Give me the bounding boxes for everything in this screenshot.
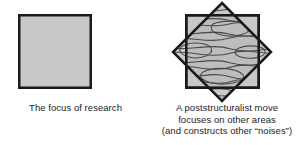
panel-poststructuralist-move: A poststructuralist move focuses on othe… <box>151 0 303 145</box>
panel-focus-of-research: The focus of research <box>0 0 151 145</box>
caption-focus-of-research: The focus of research <box>0 102 151 114</box>
caption-poststructuralist-move: A poststructuralist move focuses on othe… <box>151 102 303 137</box>
caption-line: (and constructs other “noises”) <box>151 125 303 137</box>
caption-line: The focus of research <box>0 102 151 114</box>
gray-square <box>19 15 91 88</box>
right-diagram <box>151 0 303 105</box>
caption-line: A poststructuralist move <box>151 102 303 114</box>
figure-container: The focus of research <box>0 0 303 145</box>
caption-line: focuses on other areas <box>151 114 303 126</box>
left-diagram <box>0 0 151 100</box>
